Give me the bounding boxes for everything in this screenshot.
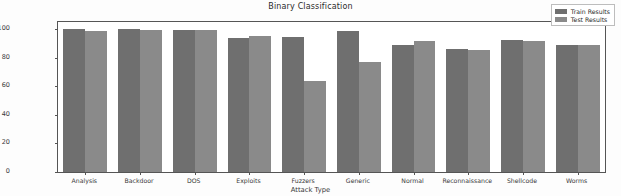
x-axis-tick-mark xyxy=(140,172,141,175)
y-axis-tick-label: 80 xyxy=(0,53,10,61)
x-axis-tick-mark xyxy=(249,172,250,175)
bar-normal-test xyxy=(414,41,436,172)
bar-reconnaissance-test xyxy=(468,50,490,172)
y-axis-tick-label: 60 xyxy=(0,81,10,89)
legend-item-train: Train Results xyxy=(555,7,610,15)
x-axis-tick-mark xyxy=(359,172,360,175)
x-axis-tick-mark xyxy=(414,172,415,175)
bar-dos-train xyxy=(173,30,195,172)
bar-generic-test xyxy=(359,62,381,172)
bar-exploits-train xyxy=(228,38,250,172)
chart-legend: Train Results Test Results xyxy=(551,4,615,26)
x-axis-tick-mark xyxy=(468,172,469,175)
y-axis-tick-label: 0 xyxy=(0,167,10,175)
bar-reconnaissance-train xyxy=(446,49,468,172)
chart-figure: Binary Classification Accuracy Percentag… xyxy=(0,0,621,196)
legend-swatch-train-icon xyxy=(555,9,567,14)
bar-fuzzers-test xyxy=(304,81,326,172)
y-axis-tick-mark xyxy=(55,86,58,87)
y-axis-tick-mark xyxy=(55,58,58,59)
bar-shellcode-train xyxy=(501,40,523,172)
legend-swatch-test-icon xyxy=(555,17,567,22)
y-axis-tick-mark xyxy=(55,29,58,30)
bar-fuzzers-train xyxy=(282,37,304,172)
legend-label-test: Test Results xyxy=(571,16,608,23)
y-axis-tick-mark xyxy=(55,115,58,116)
y-axis-tick-label: 40 xyxy=(0,110,10,118)
x-axis-tick-label-dos: DOS xyxy=(187,177,201,184)
x-axis-tick-label-exploits: Exploits xyxy=(236,177,260,184)
x-axis-tick-mark xyxy=(523,172,524,175)
x-axis-tick-mark xyxy=(195,172,196,175)
x-axis-tick-label-normal: Normal xyxy=(401,177,423,184)
bar-analysis-test xyxy=(85,31,107,172)
x-axis-tick-label-fuzzers: Fuzzers xyxy=(292,177,315,184)
bar-backdoor-train xyxy=(118,29,140,172)
x-axis-tick-mark xyxy=(304,172,305,175)
x-axis-tick-label-reconnaissance: Reconnaissance xyxy=(442,177,492,184)
bar-exploits-test xyxy=(249,36,271,172)
legend-label-train: Train Results xyxy=(571,8,610,15)
x-axis-tick-mark xyxy=(85,172,86,175)
y-axis-tick-label: 100 xyxy=(0,24,10,32)
x-axis-tick-label-backdoor: Backdoor xyxy=(125,177,154,184)
bar-worms-train xyxy=(556,45,578,172)
y-axis-tick-mark xyxy=(55,143,58,144)
bar-backdoor-test xyxy=(140,30,162,172)
y-axis-tick-mark xyxy=(55,172,58,173)
x-axis-tick-label-worms: Worms xyxy=(566,177,587,184)
x-axis-tick-label-shellcode: Shellcode xyxy=(507,177,537,184)
chart-title: Binary Classification xyxy=(0,2,621,11)
x-axis-tick-mark xyxy=(578,172,579,175)
x-axis-tick-label-analysis: Analysis xyxy=(72,177,98,184)
bar-dos-test xyxy=(195,30,217,172)
y-axis-tick-label: 20 xyxy=(0,138,10,146)
bar-shellcode-test xyxy=(523,41,545,172)
x-axis-tick-label-generic: Generic xyxy=(346,177,370,184)
bar-analysis-train xyxy=(63,29,85,172)
legend-item-test: Test Results xyxy=(555,15,610,23)
bar-normal-train xyxy=(392,45,414,172)
x-axis-label: Attack Type xyxy=(0,186,621,194)
plot-area xyxy=(57,21,606,173)
bar-worms-test xyxy=(578,45,600,172)
bar-generic-train xyxy=(337,31,359,172)
